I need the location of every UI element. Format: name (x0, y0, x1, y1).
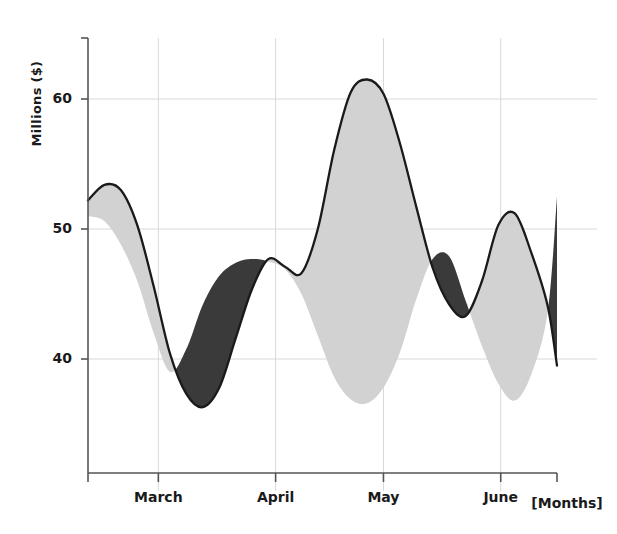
area-chart: Millions ($) 405060 MarchAprilMayJune[Mo… (0, 0, 617, 534)
y-tick-label: 60 (32, 90, 72, 106)
chart-canvas (0, 0, 617, 534)
x-tick-label: March (118, 489, 198, 505)
x-axis-unit-label: [Months] (512, 495, 617, 511)
y-tick-label: 50 (32, 220, 72, 236)
y-tick-label: 40 (32, 350, 72, 366)
x-tick-label: April (236, 489, 316, 505)
area-fill-above (88, 79, 548, 404)
x-tick-label: May (343, 489, 423, 505)
